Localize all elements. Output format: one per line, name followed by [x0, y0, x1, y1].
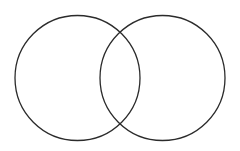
diagram-background — [0, 0, 240, 151]
venn-diagram-canvas — [0, 0, 240, 151]
venn-diagram-svg — [0, 0, 240, 151]
